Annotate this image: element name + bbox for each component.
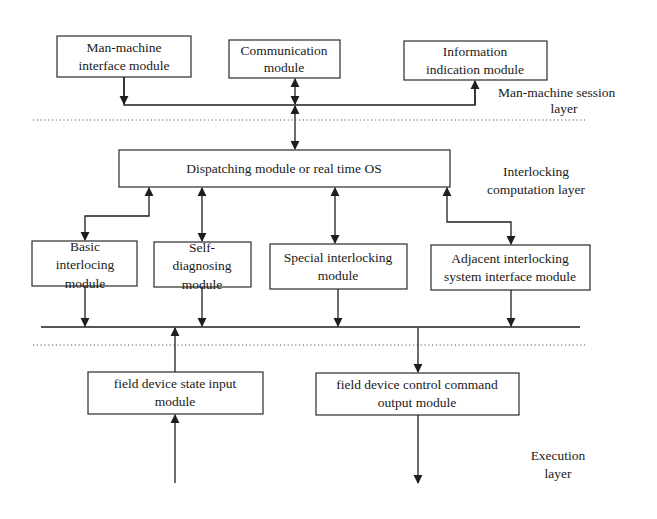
field-device-layer [0, 0, 657, 519]
